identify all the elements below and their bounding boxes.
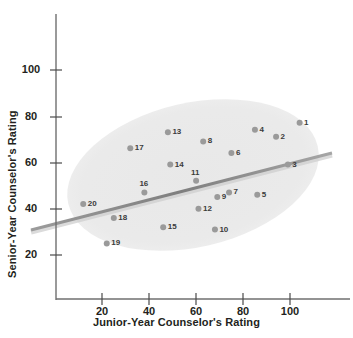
data-point-label: 12 <box>203 204 212 213</box>
data-point-label: 18 <box>118 213 127 222</box>
circle-marker-icon <box>167 162 173 168</box>
circle-marker-icon <box>195 206 201 212</box>
y-axis-title-container: Senior-Year Counselor's Rating <box>0 0 24 300</box>
circle-marker-icon <box>127 145 133 151</box>
circle-marker-icon <box>226 189 232 195</box>
circle-marker-icon <box>252 127 258 133</box>
data-point-label: 10 <box>219 225 228 234</box>
data-point-label: 11 <box>191 168 199 177</box>
data-point-label: 7 <box>234 187 238 196</box>
circle-marker-icon <box>80 201 86 207</box>
x-axis-title: Junior-Year Counselor's Rating <box>0 316 353 328</box>
data-point-label: 8 <box>208 136 212 145</box>
circle-marker-icon <box>165 129 171 135</box>
circle-marker-icon <box>193 178 199 184</box>
data-point-label: 2 <box>281 132 285 141</box>
circle-marker-icon <box>254 192 260 198</box>
data-point-label: 15 <box>168 222 177 231</box>
circle-marker-icon <box>200 138 206 144</box>
circle-marker-icon <box>111 215 117 221</box>
circle-marker-icon <box>273 134 279 140</box>
circle-marker-icon <box>228 150 234 156</box>
data-point-label: 17 <box>135 143 144 152</box>
data-point-label: 20 <box>88 199 97 208</box>
scatter-plot-figure: 100 80 60 40 20 20 40 60 80 100 Junior-Y… <box>0 0 353 338</box>
data-point-label: 6 <box>236 148 240 157</box>
data-point-label: 14 <box>175 160 184 169</box>
plot-canvas <box>0 0 353 338</box>
circle-marker-icon <box>160 224 166 230</box>
data-point-label: 1 <box>304 118 308 127</box>
data-point-label: 19 <box>111 238 120 247</box>
data-point-label: 16 <box>139 179 148 188</box>
data-point-label: 3 <box>292 160 296 169</box>
data-point-label: 9 <box>222 192 226 201</box>
data-point-label: 4 <box>259 125 263 134</box>
circle-marker-icon <box>285 162 291 168</box>
circle-marker-icon <box>214 194 220 200</box>
y-axis-title: Senior-Year Counselor's Rating <box>6 110 18 278</box>
circle-marker-icon <box>297 120 303 126</box>
data-point-label: 5 <box>262 190 266 199</box>
data-point-label: 13 <box>172 127 181 136</box>
circle-marker-icon <box>104 240 110 246</box>
circle-marker-icon <box>141 189 147 195</box>
circle-marker-icon <box>212 227 218 233</box>
